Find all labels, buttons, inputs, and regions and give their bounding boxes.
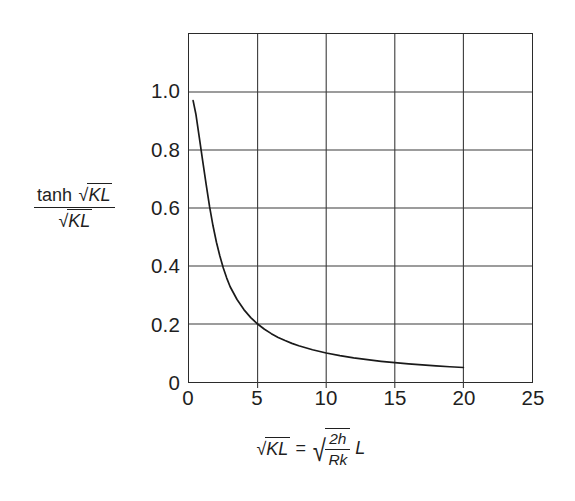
x-axis-fraction-numerator: 2h (325, 430, 350, 450)
x-tick-label: 20 (452, 388, 475, 409)
figure-container: tanh √KL √KL 0510152025 00.20.40.60.81.0… (0, 0, 575, 501)
y-axis-title: tanh √KL √KL (34, 183, 115, 232)
sqrt-kl-lhs: √KL (255, 437, 290, 460)
data-curve-layer (189, 34, 532, 382)
x-tick-label: 25 (521, 388, 544, 409)
y-tick-label: 1.0 (118, 81, 180, 102)
x-axis-title-rhs-radical: √ 2h Rk (311, 428, 350, 469)
curve-tanh-sqrt-kl (193, 101, 463, 368)
y-axis-title-fraction: tanh √KL √KL (34, 183, 115, 232)
y-tick-label: 0.6 (118, 198, 180, 219)
x-axis-title-equals: = (295, 438, 306, 459)
y-tick-label: 0.4 (118, 256, 180, 277)
y-tick-label: 0.2 (118, 314, 180, 335)
x-axis-title-fraction: 2h Rk (325, 428, 350, 469)
x-tick-label: 5 (251, 388, 263, 409)
y-axis-title-denominator: √KL (34, 208, 115, 232)
tanh-label: tanh (37, 185, 72, 205)
big-radical-sign: √ (313, 439, 326, 463)
sqrt-kl-lhs-body: KL (265, 437, 290, 460)
y-tick-label: 0.8 (118, 139, 180, 160)
x-axis-fraction-denominator: Rk (325, 450, 350, 469)
sqrt-kl-numerator-body: KL (87, 183, 112, 206)
plot-area (188, 33, 533, 383)
x-axis-title: √KL = √ 2h Rk L (255, 428, 365, 469)
sqrt-kl-denominator-body: KL (67, 209, 92, 232)
x-axis-title-factor: L (355, 438, 365, 459)
y-axis-title-numerator: tanh √KL (34, 183, 115, 208)
y-tick-label: 0 (118, 373, 180, 394)
sqrt-kl-denominator: √KL (57, 209, 92, 232)
sqrt-kl-numerator: √KL (77, 183, 112, 206)
x-tick-label: 15 (383, 388, 406, 409)
x-axis-title-lhs: √KL (255, 437, 290, 460)
x-tick-label: 10 (314, 388, 337, 409)
x-tick-label: 0 (182, 388, 194, 409)
